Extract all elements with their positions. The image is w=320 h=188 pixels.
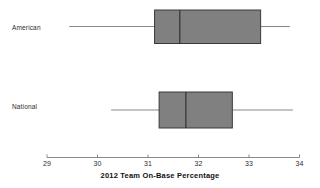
box-rect-national — [159, 92, 232, 128]
category-label-american: American — [12, 24, 41, 31]
xtick-label-33: 33 — [245, 160, 253, 167]
category-label-national: National — [12, 103, 37, 110]
xtick-label-29: 29 — [43, 160, 51, 167]
xtick-label-31: 31 — [144, 160, 152, 167]
axis-title: 2012 Team On-Base Percentage — [0, 171, 320, 180]
x-axis — [47, 155, 300, 158]
box-rect-american — [155, 10, 261, 44]
box-national — [111, 92, 293, 128]
boxplot-chart: American National 29 30 31 32 33 34 2012… — [0, 0, 320, 188]
xtick-label-30: 30 — [94, 160, 102, 167]
xtick-label-34: 34 — [296, 160, 304, 167]
xtick-label-32: 32 — [195, 160, 203, 167]
box-american — [69, 10, 290, 44]
